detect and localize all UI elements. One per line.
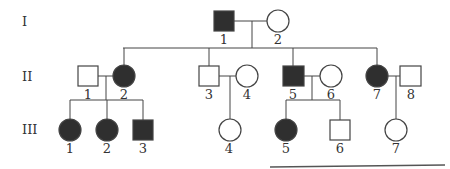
unaffected-female-III-4	[219, 119, 241, 141]
bottom-rule	[270, 165, 445, 167]
label-III-5: 5	[282, 141, 290, 156]
label-II-7: 7	[373, 87, 381, 102]
label-II-5: 5	[289, 87, 297, 102]
label-III-3: 3	[139, 141, 147, 156]
label-II-6: 6	[327, 87, 335, 102]
label-II-4: 4	[243, 87, 251, 102]
label-III-6: 6	[336, 141, 344, 156]
unaffected-female-III-7	[385, 119, 407, 141]
affected-female-III-5	[275, 119, 297, 141]
unaffected-male-III-6	[330, 120, 350, 140]
label-III-4: 4	[225, 141, 233, 156]
unaffected-female-II-4	[236, 65, 258, 87]
affected-male-II-5	[283, 66, 304, 86]
affected-female-III-1	[59, 119, 81, 141]
generation-label-II: II	[22, 69, 32, 84]
generation-III: 1 2 3 4 5 6 7	[59, 119, 407, 156]
unaffected-female-I-2	[267, 10, 289, 32]
label-II-3: 3	[205, 87, 213, 102]
affected-female-II-7	[366, 65, 388, 87]
label-III-7: 7	[392, 141, 400, 156]
label-II-8: 8	[407, 87, 415, 102]
unaffected-female-II-6	[320, 65, 342, 87]
label-I-1: 1	[220, 32, 228, 47]
label-III-2: 2	[103, 141, 111, 156]
label-III-1: 1	[66, 141, 74, 156]
generation-II: 1 2 3 4 5 6 7 8	[78, 65, 421, 102]
pedigree-chart: I II III 1 2	[0, 0, 450, 169]
unaffected-male-II-3	[199, 66, 219, 86]
label-II-1: 1	[84, 87, 92, 102]
generation-label-III: III	[22, 122, 37, 137]
label-I-2: 2	[274, 32, 282, 47]
generation-label-I: I	[22, 14, 27, 29]
unaffected-male-II-8	[400, 66, 421, 86]
affected-female-II-2	[113, 65, 135, 87]
unaffected-male-II-1	[78, 66, 98, 86]
label-II-2: 2	[120, 87, 128, 102]
affected-male-III-3	[133, 120, 153, 140]
affected-female-III-2	[96, 119, 118, 141]
affected-male-I-1	[214, 11, 234, 31]
